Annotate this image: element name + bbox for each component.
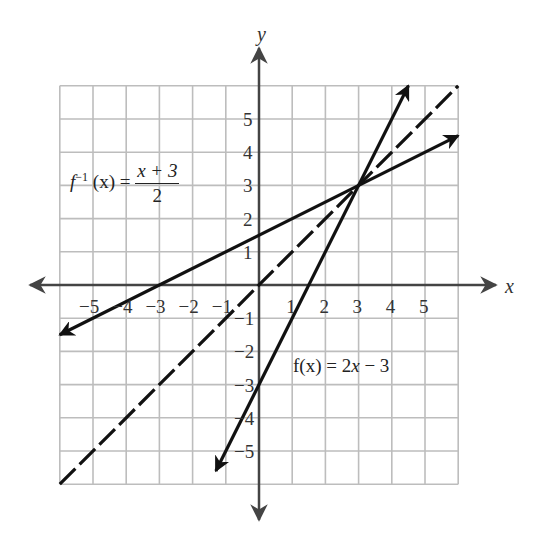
y-tick-label: 2 bbox=[243, 210, 253, 229]
x-tick-label: −3 bbox=[145, 297, 165, 316]
y-tick-label: 4 bbox=[243, 143, 253, 162]
y-tick-label: 5 bbox=[243, 110, 253, 129]
y-tick-label: −2 bbox=[234, 342, 254, 361]
y-tick-label: −1 bbox=[234, 309, 254, 328]
y-tick-label: 1 bbox=[243, 243, 253, 262]
y-axis-label: y bbox=[257, 24, 266, 44]
x-tick-label: 3 bbox=[353, 297, 363, 316]
inverse-function-label: f−1 (x) = x + 3 2 bbox=[70, 160, 179, 207]
y-tick-label: −3 bbox=[234, 376, 254, 395]
x-tick-label: −4 bbox=[112, 297, 132, 316]
inverse-numerator: x + 3 bbox=[135, 160, 179, 184]
y-tick-label: −5 bbox=[234, 442, 254, 461]
x-axis-label: x bbox=[505, 276, 514, 296]
x-tick-label: 5 bbox=[419, 297, 429, 316]
function-label: f(x) = 2x − 3 bbox=[293, 355, 389, 377]
coordinate-plane bbox=[0, 0, 548, 548]
function-prefix: f(x) = 2 bbox=[293, 355, 351, 376]
x-tick-label: −2 bbox=[179, 297, 199, 316]
inverse-exponent: −1 bbox=[75, 170, 88, 184]
function-suffix: − 3 bbox=[360, 355, 390, 376]
y-tick-label: 3 bbox=[243, 176, 253, 195]
inverse-argument: (x) = bbox=[88, 171, 130, 192]
x-tick-label: −1 bbox=[212, 297, 232, 316]
x-tick-label: −5 bbox=[79, 297, 99, 316]
inverse-denominator: 2 bbox=[153, 184, 163, 207]
x-tick-label: 1 bbox=[286, 297, 296, 316]
x-tick-label: 4 bbox=[386, 297, 396, 316]
x-tick-label: 2 bbox=[319, 297, 329, 316]
function-variable: x bbox=[351, 355, 359, 376]
y-tick-label: −4 bbox=[234, 409, 254, 428]
inverse-fraction: x + 3 2 bbox=[135, 160, 179, 207]
